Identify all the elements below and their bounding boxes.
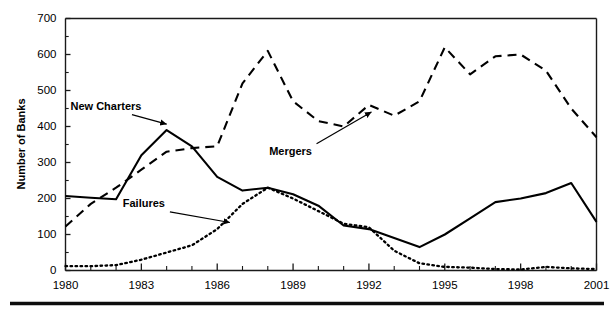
bank-trends-line-chart: 0100200300400500600700 19801983198619891… (0, 0, 614, 316)
x-tick-label: 1995 (432, 279, 458, 291)
x-tick-label: 1989 (280, 279, 306, 291)
annotation-failures-label: Failures (123, 197, 165, 209)
annotation-mergers-label: Mergers (269, 145, 312, 157)
y-tick-label: 600 (37, 48, 56, 60)
y-tick-label: 200 (37, 192, 56, 204)
y-tick-label: 0 (50, 264, 56, 276)
annotation-new-charters-label: New Charters (70, 100, 141, 112)
x-tick-label: 1983 (129, 279, 155, 291)
y-tick-label: 300 (37, 156, 56, 168)
x-tick-label: 2001 (584, 279, 610, 291)
chart-figure: 0100200300400500600700 19801983198619891… (0, 0, 614, 316)
y-tick-label: 700 (37, 12, 56, 24)
y-tick-label: 500 (37, 84, 56, 96)
y-tick-label: 100 (37, 228, 56, 240)
y-tick-label: 400 (37, 120, 56, 132)
x-tick-label: 1986 (204, 279, 230, 291)
x-tick-label: 1980 (53, 279, 79, 291)
y-axis-title: Number of Banks (15, 98, 27, 189)
x-tick-label: 1992 (356, 279, 382, 291)
x-tick-label: 1998 (508, 279, 534, 291)
